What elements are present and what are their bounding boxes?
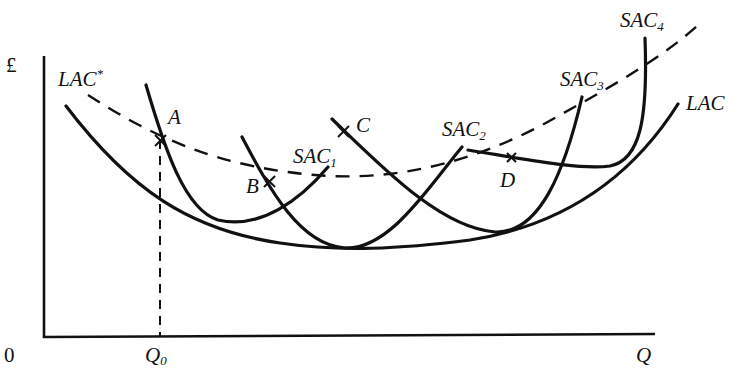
sac3-label: SAC3	[560, 67, 604, 93]
origin-label: 0	[4, 343, 15, 367]
sac-b-curve	[242, 137, 462, 248]
cost-curves-diagram: £ 0 Q Q0 LAC* LAC SAC1 SAC2 SAC3 SAC4 A …	[0, 0, 743, 390]
lac-star-curve	[88, 26, 697, 176]
q0-label: Q0	[145, 343, 167, 368]
sac1-label: SAC1	[293, 144, 337, 170]
axis-lines	[44, 56, 655, 337]
point-d-label: D	[499, 168, 515, 192]
sac2-label: SAC2	[442, 117, 486, 143]
sac4-label: SAC4	[620, 8, 664, 34]
y-axis-label: £	[6, 53, 17, 77]
point-a-label: A	[166, 105, 181, 129]
point-b-label: B	[246, 174, 259, 198]
axes	[44, 56, 655, 337]
point-c-label: C	[356, 113, 371, 137]
lac-label: LAC	[685, 91, 726, 115]
lac-star-label: LAC*	[57, 66, 104, 91]
x-axis-label: Q	[636, 343, 651, 367]
sac-d-curve	[468, 38, 646, 167]
